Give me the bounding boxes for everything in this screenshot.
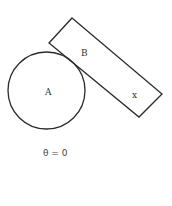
rectangle-label-x: x [132, 90, 137, 100]
diagram-canvas: A B x θ = 0 [0, 0, 172, 206]
circle-label-a: A [44, 87, 52, 97]
angle-caption: θ = 0 [43, 148, 68, 158]
rectangle-label-b: B [81, 48, 88, 58]
rectangle-b [49, 18, 162, 117]
